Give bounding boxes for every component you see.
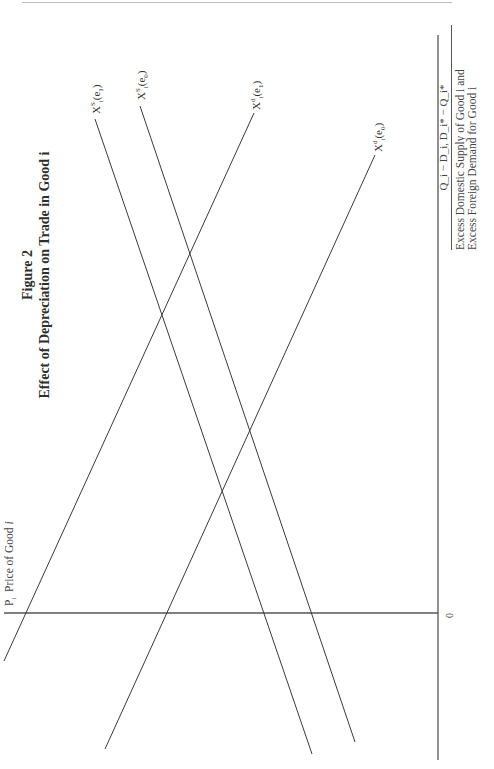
label-sup: d xyxy=(371,141,379,145)
x-axis-line2: Excess Foreign Demand for Good i xyxy=(466,25,478,250)
label-xs-e1: XSi(e1) xyxy=(89,84,105,114)
label-base: X xyxy=(90,106,102,114)
label-sub: i xyxy=(142,86,150,88)
y-axis-label: Pi Price of Good i xyxy=(3,521,18,606)
figure-title: Effect of Depreciation on Trade in Good … xyxy=(36,130,53,420)
label-arg: (e xyxy=(135,78,147,87)
label-sup: d xyxy=(249,99,257,103)
y-axis-symbol: P xyxy=(3,600,15,606)
label-arg-sub: 0 xyxy=(142,74,150,78)
curve-xd-e0 xyxy=(105,155,375,749)
label-close: ) xyxy=(250,81,262,85)
label-arg: (e xyxy=(250,88,262,97)
x-axis-description: Excess Domestic Supply of Good i and Exc… xyxy=(452,25,478,250)
x-axis-formula: Q_i − D_i, D_i* − Q_i* xyxy=(437,25,452,250)
label-sup: S xyxy=(89,102,97,106)
label-base: X xyxy=(135,92,147,100)
label-arg: (e xyxy=(372,130,384,139)
y-axis-text: Price of Good xyxy=(3,525,15,592)
label-xd-e1: Xdi(e1) xyxy=(249,81,265,110)
label-sub: i xyxy=(97,100,105,102)
label-arg-sub: 1 xyxy=(97,88,105,92)
label-base: X xyxy=(372,144,384,152)
label-arg-sub: 0 xyxy=(379,127,387,131)
label-xs-e0: XSi(e0) xyxy=(134,70,150,100)
x-axis-label: Q_i − D_i, D_i* − Q_i* Excess Domestic S… xyxy=(437,25,478,250)
figure-plot xyxy=(0,0,494,769)
label-base: X xyxy=(250,102,262,110)
label-arg: (e xyxy=(90,92,102,101)
figure-number: Figure 2 xyxy=(20,130,36,420)
label-arg-sub: 1 xyxy=(257,85,265,89)
curve-xs-e0 xyxy=(140,106,355,742)
figure-title-text: Effect of Depreciation on Trade in Good … xyxy=(37,152,52,399)
figure-title-block: Figure 2 Effect of Depreciation on Trade… xyxy=(20,130,53,420)
y-axis-symbol-sub: i xyxy=(10,598,18,600)
label-xd-e0: Xdi(e0) xyxy=(371,123,387,152)
curve-xs-e1 xyxy=(95,119,312,754)
origin-label: 0 xyxy=(444,613,455,618)
label-close: ) xyxy=(90,84,102,88)
label-close: ) xyxy=(372,123,384,127)
y-axis-italic: i xyxy=(3,521,15,524)
x-axis-line1: Excess Domestic Supply of Good i and xyxy=(454,25,466,250)
label-sup: S xyxy=(134,88,142,92)
label-close: ) xyxy=(135,70,147,74)
